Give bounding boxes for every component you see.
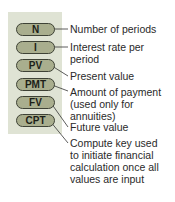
label-n: Number of periods — [70, 23, 156, 35]
label-fv: Future value — [70, 121, 128, 133]
key-fv[interactable]: FV — [16, 96, 55, 109]
key-cpt[interactable]: CPT — [16, 114, 55, 127]
key-pmt[interactable]: PMT — [16, 78, 55, 91]
key-n[interactable]: N — [16, 23, 55, 36]
key-i[interactable]: I — [16, 41, 55, 54]
label-pmt: Amount of payment (used only for annuiti… — [70, 86, 161, 122]
key-pv[interactable]: PV — [16, 59, 55, 72]
label-pv: Present value — [70, 70, 134, 82]
label-i: Interest rate per period — [70, 41, 144, 65]
label-cpt: Compute key used to initiate financial c… — [70, 137, 159, 185]
